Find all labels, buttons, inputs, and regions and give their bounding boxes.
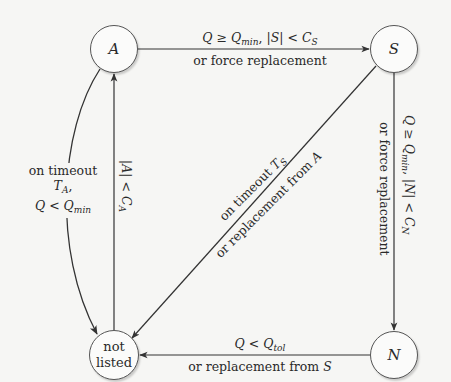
node-a-label: A (109, 40, 120, 58)
edge-a-to-notlisted-label: on timeout TA, Q < Qmin (18, 163, 108, 218)
edge-n-to-notlisted-condition: Q < Qtol (170, 336, 350, 356)
edge-s-to-n-condition: Q ≥ Qmin, |N| < CN (397, 115, 417, 234)
node-s-label: S (389, 40, 399, 58)
edge-s-to-n-alt: or force replacement (377, 122, 392, 256)
edge-n-to-notlisted-alt: or replacement from S (170, 359, 350, 374)
node-n: N (370, 331, 418, 379)
state-diagram: A S N not listed Q ≥ Qmin, |S| < CS or f… (0, 0, 451, 382)
node-not-listed-label: not listed (96, 339, 132, 371)
node-not-listed: not listed (89, 330, 139, 380)
node-n-label: N (387, 346, 400, 364)
edge-a-to-s-condition: Q ≥ Qmin, |S| < CS (170, 30, 350, 50)
node-s: S (370, 25, 418, 73)
edge-notlisted-to-a-condition: |A| < CA (114, 160, 134, 212)
node-a: A (90, 25, 138, 73)
edge-a-to-s-alt: or force replacement (170, 53, 350, 68)
